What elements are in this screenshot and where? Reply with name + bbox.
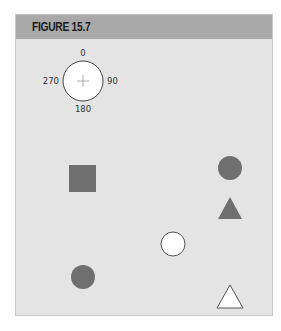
filled-triangle-shape xyxy=(218,197,242,219)
compass-label-bottom: 180 xyxy=(75,104,91,114)
compass-label-top: 0 xyxy=(80,48,85,58)
filled-circle-shape-lower xyxy=(71,265,95,289)
figure-canvas: 0 90 180 270 xyxy=(0,0,281,331)
open-circle-shape xyxy=(161,232,185,256)
filled-square-shape xyxy=(69,165,96,192)
compass-dial: 0 90 180 270 xyxy=(43,48,118,114)
compass-label-right: 90 xyxy=(107,76,118,86)
open-triangle-shape xyxy=(217,285,243,308)
compass-label-left: 270 xyxy=(43,76,59,86)
filled-circle-shape xyxy=(218,156,242,180)
